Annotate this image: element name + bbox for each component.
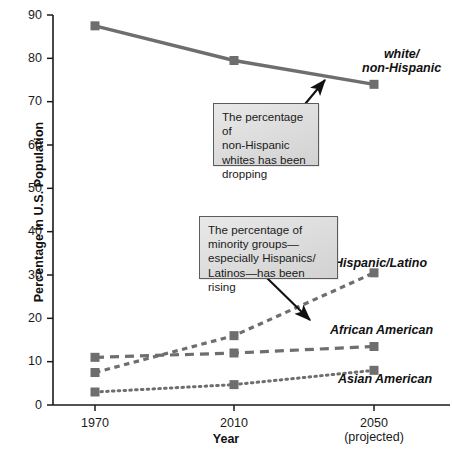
callout-minority-arrow: [267, 278, 310, 320]
series-label-african-american: African American: [330, 323, 433, 337]
series-line-0: [95, 26, 374, 85]
data-marker-s2-p2: [370, 342, 379, 351]
x-tick-label-2010: 2010: [174, 416, 294, 430]
y-tick-label-90: 90: [12, 9, 42, 21]
data-marker-s1-p0: [91, 368, 100, 377]
x-axis-ticks: [95, 405, 374, 411]
series-label-white-line1: white/: [384, 47, 419, 61]
y-axis-ticks: [47, 15, 53, 405]
data-marker-s0-p2: [370, 80, 379, 89]
series-label-white: white/ non-Hispanic: [362, 47, 441, 75]
series-label-hispanic-latino: Hispanic/Latino: [334, 256, 427, 270]
callout-minority-box: The percentage of minority groups— espec…: [199, 216, 338, 279]
callout-white-line-2: non-Hispanic: [222, 138, 290, 151]
data-marker-s3-p0: [91, 388, 100, 397]
data-marker-s0-p1: [230, 56, 239, 65]
series-label-white-line2: non-Hispanic: [362, 61, 441, 75]
callout-white-line-3: whites has been: [222, 153, 306, 166]
data-marker-s3-p1: [230, 380, 239, 389]
x-tick-label-1970: 1970: [35, 416, 155, 430]
y-tick-label-10: 10: [12, 355, 42, 367]
y-tick-label-0: 0: [12, 399, 42, 411]
data-marker-s2-p1: [230, 349, 239, 358]
callout-minority-line-3: especially Hispanics/: [208, 251, 316, 264]
data-marker-s1-p1: [230, 331, 239, 340]
data-marker-s2-p0: [91, 353, 100, 362]
x-tick-label-main-2050: 2050: [360, 416, 388, 430]
y-tick-label-80: 80: [12, 52, 42, 64]
callout-white-line-4: dropping: [222, 167, 267, 180]
y-axis-title: Percentage in U.S. Population: [32, 97, 46, 327]
x-tick-label-main-1970: 1970: [81, 416, 109, 430]
callout-white-box: The percentage of non-Hispanic whites ha…: [213, 103, 319, 166]
callout-white-line-1: The percentage of: [222, 110, 303, 137]
data-series-layer: [91, 21, 379, 396]
callout-minority-line-1: The percentage of: [208, 223, 302, 236]
series-label-asian-american: Asian American: [338, 372, 432, 386]
x-axis-title: Year: [0, 432, 452, 446]
callout-minority-line-2: minority groups—: [208, 237, 299, 250]
chart-container: 0102030405060708090 197020102050(project…: [0, 0, 452, 458]
data-marker-s0-p0: [91, 21, 100, 30]
x-tick-label-main-2010: 2010: [220, 416, 248, 430]
